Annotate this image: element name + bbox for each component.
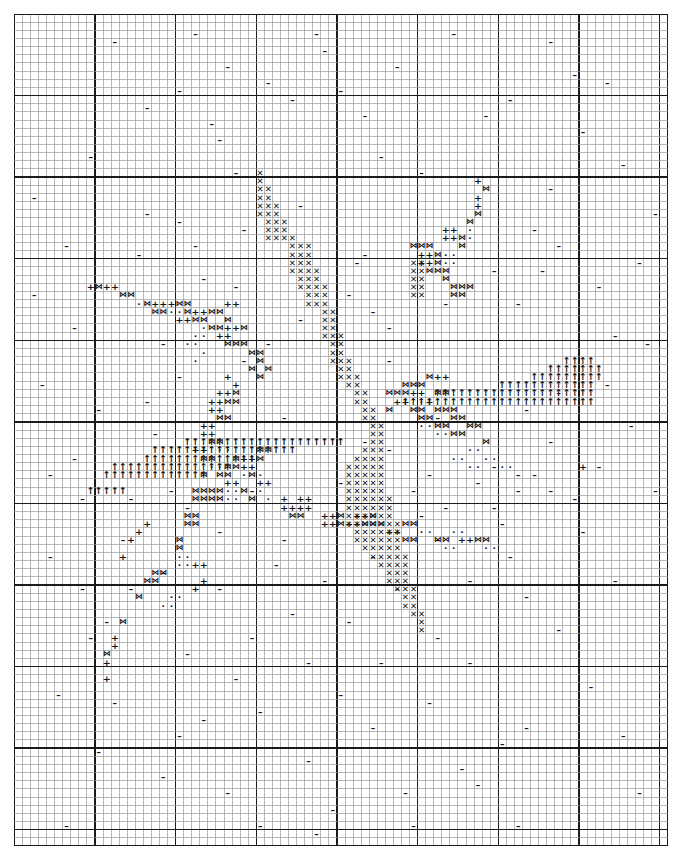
dash-symbol[interactable]: – xyxy=(595,463,603,471)
bowtie-symbol[interactable]: ⋈ xyxy=(216,495,224,503)
plus-symbol[interactable]: + xyxy=(175,316,183,324)
dash-symbol[interactable]: – xyxy=(506,553,514,561)
bowtie-symbol[interactable]: ⋈ xyxy=(426,242,434,250)
bowtie-symbol[interactable]: ⋈ xyxy=(240,324,248,332)
dash-symbol[interactable]: – xyxy=(474,479,482,487)
dot-symbol[interactable]: · xyxy=(474,463,482,471)
dash-symbol[interactable]: – xyxy=(450,30,458,38)
bowtie-symbol[interactable]: ⋈ xyxy=(151,577,159,585)
bowtie-symbol[interactable]: ⋈ xyxy=(248,495,256,503)
bowtie-symbol[interactable]: ⋈ xyxy=(224,414,232,422)
dash-symbol[interactable]: – xyxy=(224,789,232,797)
cross-symbol[interactable]: ✕ xyxy=(337,373,345,381)
dash-symbol[interactable]: – xyxy=(571,71,579,79)
bowtie-symbol[interactable]: ⋈ xyxy=(224,398,232,406)
bowtie-symbol[interactable]: ⋈ xyxy=(409,520,417,528)
arrow-up-symbol[interactable]: ↑ xyxy=(426,398,434,406)
dash-symbol[interactable]: – xyxy=(62,242,70,250)
bowtie-symbol[interactable]: ⋈ xyxy=(208,308,216,316)
arrow-up-symbol[interactable]: ↑ xyxy=(442,398,450,406)
dash-symbol[interactable]: – xyxy=(434,536,442,544)
bowtie-symbol[interactable]: ⋈ xyxy=(401,536,409,544)
arrow-up-symbol[interactable]: ↑ xyxy=(175,471,183,479)
dot-symbol[interactable]: · xyxy=(458,528,466,536)
dash-symbol[interactable]: – xyxy=(482,112,490,120)
bowtie-symbol[interactable]: ⋈ xyxy=(458,242,466,250)
cross-symbol[interactable]: ✕ xyxy=(418,291,426,299)
dash-symbol[interactable]: – xyxy=(337,479,345,487)
dash-symbol[interactable]: – xyxy=(547,185,555,193)
arrow-up-symbol[interactable]: ↑ xyxy=(216,463,224,471)
arrow-up-symbol[interactable]: ↑ xyxy=(563,398,571,406)
plus-symbol[interactable]: + xyxy=(224,373,232,381)
cross-symbol[interactable]: ✕ xyxy=(313,300,321,308)
dash-symbol[interactable]: – xyxy=(522,593,530,601)
dot-symbol[interactable]: · xyxy=(466,234,474,242)
dash-symbol[interactable]: – xyxy=(345,618,353,626)
arrow-up-symbol[interactable]: ↑ xyxy=(579,398,587,406)
bowtie-symbol[interactable]: ⋈ xyxy=(216,308,224,316)
dash-symbol[interactable]: – xyxy=(547,38,555,46)
arrow-up-symbol[interactable]: ↑ xyxy=(87,487,95,495)
cross-symbol[interactable]: ✕ xyxy=(353,536,361,544)
cross-symbol[interactable]: ✕ xyxy=(401,602,409,610)
dash-symbol[interactable]: – xyxy=(466,577,474,585)
cross-symbol[interactable]: ✕ xyxy=(321,332,329,340)
plus-symbol[interactable]: + xyxy=(192,561,200,569)
bowtie-symbol[interactable]: ⋈ xyxy=(377,520,385,528)
plus-symbol[interactable]: + xyxy=(87,283,95,291)
dash-symbol[interactable]: – xyxy=(103,618,111,626)
dash-symbol[interactable]: – xyxy=(79,495,87,503)
bowtie-symbol[interactable]: ⋈ xyxy=(232,463,240,471)
dash-symbol[interactable]: – xyxy=(321,47,329,55)
arrow-up-symbol[interactable]: ↑ xyxy=(466,398,474,406)
dot-symbol[interactable]: · xyxy=(450,528,458,536)
bowtie-symbol[interactable]: ⋈ xyxy=(192,495,200,503)
dash-symbol[interactable]: – xyxy=(337,87,345,95)
dash-symbol[interactable]: – xyxy=(159,340,167,348)
bowtie-symbol[interactable]: ⋈ xyxy=(409,242,417,250)
dash-symbol[interactable]: – xyxy=(571,495,579,503)
arrow-up-symbol[interactable]: ↑ xyxy=(321,438,329,446)
dash-symbol[interactable]: – xyxy=(111,699,119,707)
bowtie-symbol[interactable]: ⋈ xyxy=(288,512,296,520)
plus-symbol[interactable]: + xyxy=(264,479,272,487)
bowtie-symbol[interactable]: ⋈ xyxy=(240,340,248,348)
arrow-up-symbol[interactable]: ↑ xyxy=(555,398,563,406)
dash-symbol[interactable]: – xyxy=(46,471,54,479)
bowtie-symbol[interactable]: ⋈ xyxy=(474,210,482,218)
dot-symbol[interactable]: · xyxy=(466,446,474,454)
dash-symbol[interactable]: – xyxy=(143,398,151,406)
arrow-up-symbol[interactable]: ↑ xyxy=(458,398,466,406)
dash-symbol[interactable]: – xyxy=(216,136,224,144)
dash-symbol[interactable]: – xyxy=(393,63,401,71)
dash-symbol[interactable]: – xyxy=(135,251,143,259)
arrow-up-symbol[interactable]: ↑ xyxy=(200,471,208,479)
bowtie-symbol[interactable]: ⋈ xyxy=(119,291,127,299)
plus-symbol[interactable]: + xyxy=(103,675,111,683)
bowtie-symbol[interactable]: ⋈ xyxy=(474,536,482,544)
dot-symbol[interactable]: · xyxy=(200,349,208,357)
bowtie-symbol[interactable]: ⋈ xyxy=(385,406,393,414)
arrow-up-symbol[interactable]: ↑ xyxy=(418,398,426,406)
dot-symbol[interactable]: · xyxy=(240,471,248,479)
bowtie-symbol[interactable]: ⋈ xyxy=(361,520,369,528)
dash-symbol[interactable]: – xyxy=(619,732,627,740)
dash-symbol[interactable]: – xyxy=(87,634,95,642)
plus-symbol[interactable]: + xyxy=(183,316,191,324)
bowtie-symbol[interactable]: ⋈ xyxy=(95,283,103,291)
dash-symbol[interactable]: – xyxy=(256,708,264,716)
arrow-up-symbol[interactable]: ↑ xyxy=(224,463,232,471)
dot-symbol[interactable]: · xyxy=(264,495,272,503)
plus-symbol[interactable]: + xyxy=(135,528,143,536)
bowtie-symbol[interactable]: ⋈ xyxy=(450,291,458,299)
bowtie-symbol[interactable]: ⋈ xyxy=(434,267,442,275)
dot-symbol[interactable]: · xyxy=(426,422,434,430)
dash-symbol[interactable]: – xyxy=(530,471,538,479)
bowtie-symbol[interactable]: ⋈ xyxy=(135,593,143,601)
dash-symbol[interactable]: – xyxy=(393,585,401,593)
dash-symbol[interactable]: – xyxy=(611,332,619,340)
dash-symbol[interactable]: – xyxy=(547,487,555,495)
dot-symbol[interactable]: · xyxy=(135,300,143,308)
dash-symbol[interactable]: – xyxy=(159,773,167,781)
